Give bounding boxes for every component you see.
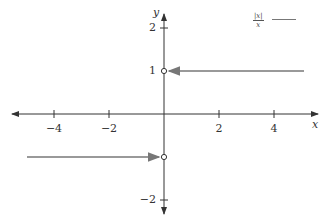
legend-numerator: |x| xyxy=(253,12,264,21)
chart-canvas xyxy=(0,0,326,222)
legend: |x| x xyxy=(253,12,296,29)
x-tick-label: −2 xyxy=(101,122,117,135)
legend-denominator: x xyxy=(256,21,260,29)
x-axis-label: x xyxy=(312,118,318,131)
x-tick-label: 4 xyxy=(271,122,278,135)
open-point-lower xyxy=(161,154,166,159)
y-tick-label: 2 xyxy=(126,21,156,34)
y-axis-label: y xyxy=(153,6,159,19)
y-tick-label: 1 xyxy=(126,64,156,77)
legend-swatch xyxy=(272,19,296,20)
x-tick-label: 2 xyxy=(216,122,223,135)
x-tick-label: −4 xyxy=(46,122,62,135)
open-point-upper xyxy=(161,68,166,73)
y-tick-label: −2 xyxy=(126,193,156,206)
legend-label: |x| x xyxy=(253,12,264,29)
